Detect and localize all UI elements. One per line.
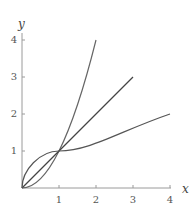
curve-sqrt-x: [22, 114, 170, 188]
x-axis-label: x: [182, 182, 189, 196]
y-tick-label: 4: [11, 34, 17, 45]
x-tick-label: 1: [56, 194, 62, 205]
curve-x-squared: [22, 40, 96, 188]
x-tick-label: 2: [93, 194, 99, 205]
y-tick-label: 1: [11, 145, 17, 156]
y-axis-label: y: [17, 17, 25, 31]
x-tick-label: 4: [167, 194, 173, 205]
line-y-equals-x: [22, 77, 133, 188]
x-tick-label: 3: [130, 194, 136, 205]
y-tick-label: 2: [11, 108, 17, 119]
chart: 1 2 3 4 1 2 3 4 x y: [0, 0, 195, 213]
y-tick-label: 3: [11, 71, 17, 82]
